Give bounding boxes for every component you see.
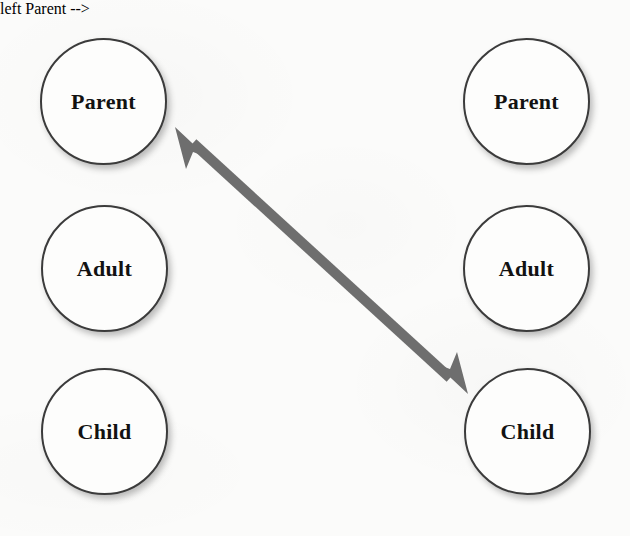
right-person-adult-circle[interactable]: Adult — [463, 205, 590, 332]
transactional-analysis-diagram: left Parent --> Parent Adult Child Paren… — [0, 0, 630, 536]
right-person-child-label: Child — [500, 421, 554, 443]
arrow-head-lower-right — [436, 352, 468, 394]
arrow-head-upper-left — [175, 127, 207, 169]
right-person-parent-label: Parent — [494, 91, 559, 113]
arrow-shaft — [193, 143, 450, 378]
right-person-adult-label: Adult — [499, 258, 554, 280]
right-person-child-circle[interactable]: Child — [464, 368, 591, 495]
left-person-child-circle[interactable]: Child — [41, 368, 168, 495]
left-person-adult-circle[interactable]: Adult — [41, 205, 168, 332]
left-person-child-label: Child — [77, 421, 131, 443]
left-person-parent-label: Parent — [71, 91, 136, 113]
left-person-adult-label: Adult — [77, 258, 132, 280]
right-person-parent-circle[interactable]: Parent — [463, 38, 590, 165]
left-person-parent-circle[interactable]: Parent — [40, 38, 167, 165]
